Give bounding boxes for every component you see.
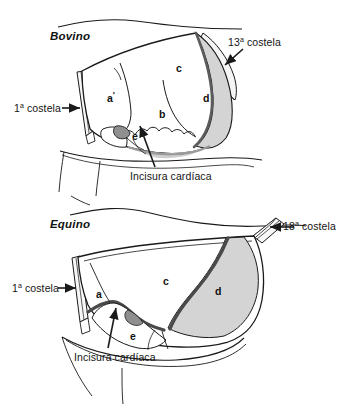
region-letter-bovino-e: e: [132, 130, 138, 142]
region-letter-equino-e: e: [130, 330, 136, 342]
species-heading-bovino: Bovino: [50, 30, 90, 42]
costela-word-rib1-equino: costela: [22, 282, 59, 294]
region-letter-bovino-a-prime: a': [107, 92, 115, 104]
equino-foreleg-line2: [122, 368, 123, 404]
rib18-number: 18: [283, 220, 295, 232]
equino-panel: [58, 208, 306, 404]
costela-word-rib18: costela: [299, 220, 336, 232]
anatomy-drawing: [0, 0, 349, 418]
region-letter-bovino-b: b: [159, 108, 165, 120]
equino-rib18-strip: [253, 218, 284, 243]
region-letter-equino-c: c: [163, 275, 169, 287]
species-heading-equino: Equino: [50, 218, 90, 230]
callout-label-rib-18: 18a costela: [283, 220, 336, 232]
region-letter-bovino-c: c: [176, 62, 182, 74]
bovino-dorsal-contour: [58, 20, 242, 29]
costela-word-rib1-bovino: costela: [24, 102, 61, 114]
callout-label-incisura-cardiaca-equino: Incisura cardíaca: [74, 351, 156, 363]
callout-label-rib-1-bovino: 1a costela: [14, 102, 61, 114]
bovino-rib13-arrow: [225, 49, 243, 65]
callout-label-rib-1-equino: 1a costela: [12, 282, 59, 294]
bovino-foreleg-line-inner: [96, 161, 100, 196]
costela-word-rib13: costela: [244, 36, 281, 48]
bovino-hindleg-line: [71, 196, 90, 205]
anatomy-figure: Bovino Equino 1a costela 13a costela Inc…: [0, 0, 349, 418]
callout-label-incisura-cardiaca-bovino: Incisura cardíaca: [130, 170, 212, 182]
region-letter-bovino-d: d: [203, 92, 209, 104]
region-letter-equino-d: d: [215, 285, 221, 297]
rib13-number: 13: [228, 36, 240, 48]
bovino-foreleg-line-outer: [59, 152, 64, 192]
region-letter-equino-a: a: [96, 288, 102, 300]
region-letter-bovino-a-prime-mark: ': [113, 90, 115, 100]
callout-label-rib-13: 13a costela: [228, 36, 281, 48]
